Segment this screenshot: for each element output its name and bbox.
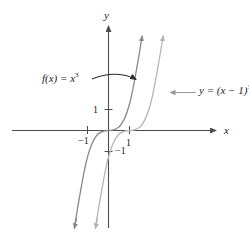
shifted-curve-equation-label: y = (x − 1)3 (199, 84, 249, 96)
x-axis-label: x (224, 125, 229, 136)
base-curve-exponent: 3 (75, 71, 79, 79)
y-tick-label-one: 1 (93, 105, 98, 115)
base-curve-equation-label: f(x) = x3 (42, 72, 79, 84)
y-tick-label-negative-one: −1 (115, 146, 126, 156)
x-tick-label-one: 1 (126, 138, 131, 148)
base-curve-equation-text: f(x) = x (42, 72, 75, 84)
shifted-curve-equation-text: y = (x − 1) (199, 84, 247, 96)
base-curve-annotation-arrow (92, 74, 136, 79)
cubic-translation-figure: y x −1 1 1 −1 f(x) = x3 y = (x − 1)3 (0, 0, 249, 242)
graph-canvas (0, 0, 249, 242)
y-axis-label: y (104, 10, 109, 21)
x-tick-label-negative-one: −1 (78, 136, 89, 146)
shifted-curve-exponent: 3 (247, 83, 249, 91)
